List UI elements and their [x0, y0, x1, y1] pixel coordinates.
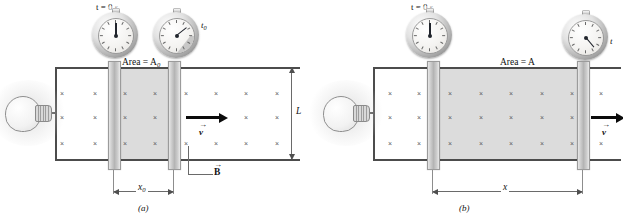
panel-b: t = 0 s	[311, 0, 622, 221]
stopwatch-pin	[114, 34, 118, 38]
stopwatch-b-elapsed	[562, 14, 608, 60]
stopwatch-face	[412, 18, 448, 54]
caption-a: (a)	[138, 203, 149, 213]
velocity-label-b: v	[602, 127, 606, 137]
light-bulb-b	[323, 96, 369, 130]
panel-a: t = 0 s	[0, 0, 311, 221]
induction-figure: t = 0 s	[0, 0, 623, 221]
stopwatch-b-initial	[406, 12, 452, 58]
field-leader-line-a	[188, 146, 213, 175]
conducting-bar-moving-a[interactable]	[168, 61, 181, 170]
area-label-b: Area = A	[500, 57, 535, 67]
stopwatch-pin	[175, 34, 179, 38]
distance-label-b: x	[501, 182, 509, 192]
stopwatch-pin	[428, 34, 432, 38]
watch-b2-label: t	[610, 36, 613, 46]
stopwatch-a-initial	[92, 12, 138, 58]
watch-a2-label: t0	[201, 20, 207, 31]
bulb-base-icon	[35, 105, 52, 122]
light-bulb-a	[5, 96, 51, 130]
field-label-a: →B	[214, 167, 220, 177]
stopwatch-face	[568, 20, 604, 56]
velocity-arrow-a	[186, 116, 220, 119]
distance-label-a: x0	[136, 182, 148, 193]
length-label-a: L	[296, 106, 301, 116]
length-dimension-a	[291, 68, 292, 159]
stopwatch-pin	[584, 36, 588, 40]
field-vector-arrow: →B	[214, 167, 220, 177]
stopwatch-a-elapsed	[153, 12, 199, 58]
velocity-arrow-b	[591, 116, 617, 119]
stopwatch-face	[159, 18, 195, 54]
conducting-bar-initial-b[interactable]	[427, 61, 440, 170]
stopwatch-face	[98, 18, 134, 54]
caption-b: (b)	[459, 203, 470, 213]
conducting-bar-initial-a[interactable]	[108, 61, 121, 170]
bulb-base-icon	[353, 105, 370, 122]
velocity-label-a: v	[199, 127, 203, 137]
conducting-bar-moving-b[interactable]	[577, 61, 590, 170]
stopwatch-elapsed-wedge	[177, 36, 195, 53]
